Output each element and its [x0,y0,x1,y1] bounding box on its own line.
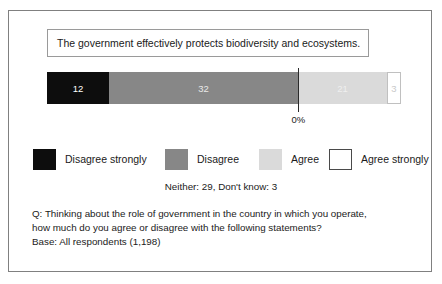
bar-segment-agree-strongly: 3 [387,72,401,104]
figure-panel: The government effectively protects biod… [8,10,432,272]
bar-segment-label: 32 [198,83,209,94]
legend-item-agree-strongly: Agree strongly [329,147,429,171]
bar-segment-label: 12 [73,83,84,94]
bar-segment-disagree-strongly: 12 [47,72,109,104]
legend-item-label: Agree strongly [361,153,429,165]
neither-dontknow-note: Neither: 29, Don't know: 3 [9,181,433,192]
legend-swatch-icon [33,149,56,170]
statement-box: The government effectively protects biod… [47,29,369,57]
zero-reference-line [298,68,299,112]
footer-block: Q: Thinking about the role of government… [32,207,412,249]
question-line-1: Q: Thinking about the role of government… [32,207,412,221]
legend-item-label: Disagree [197,153,239,165]
zero-axis-label: 0% [291,114,305,125]
stacked-bar: 12 32 21 3 [47,72,401,104]
chart-legend: Disagree strongly Disagree Agree Agree s… [33,147,415,171]
base-line: Base: All respondents (1,198) [32,235,412,249]
bar-segment-label: 3 [391,83,396,94]
legend-swatch-icon [329,149,352,170]
bar-segment-disagree: 32 [109,72,298,104]
bar-segment-label: 21 [337,83,348,94]
legend-item-label: Disagree strongly [65,153,147,165]
legend-item-disagree-strongly: Disagree strongly [33,147,147,171]
legend-swatch-icon [259,149,282,170]
statement-text: The government effectively protects biod… [48,37,360,49]
legend-item-label: Agree [291,153,319,165]
legend-item-agree: Agree [259,147,319,171]
bar-segment-agree: 21 [298,72,387,104]
stacked-bar-chart: 12 32 21 3 0% [47,72,401,104]
legend-item-disagree: Disagree [165,147,239,171]
legend-swatch-icon [165,149,188,170]
question-line-2: how much do you agree or disagree with t… [32,221,412,235]
